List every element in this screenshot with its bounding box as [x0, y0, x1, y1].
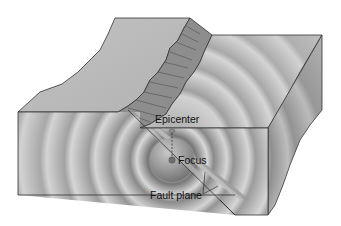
focus-label: Focus [178, 155, 207, 166]
epicenter-marker [169, 129, 175, 133]
epicenter-label: Epicenter [155, 114, 199, 125]
focus-point [169, 157, 175, 163]
fault-plane-label: Fault plane [150, 190, 202, 201]
